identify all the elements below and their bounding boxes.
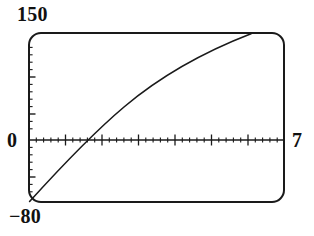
plot-canvas [0, 0, 314, 236]
origin-label: 0 [7, 130, 17, 150]
y-min-label: −80 [9, 206, 41, 226]
y-max-label: 150 [17, 4, 48, 24]
x-max-label: 7 [292, 130, 302, 150]
graph-screenshot: 150 0 7 −80 [0, 0, 314, 236]
plot-curve [30, 34, 251, 202]
y-axis-minor-ticks [29, 47, 33, 191]
